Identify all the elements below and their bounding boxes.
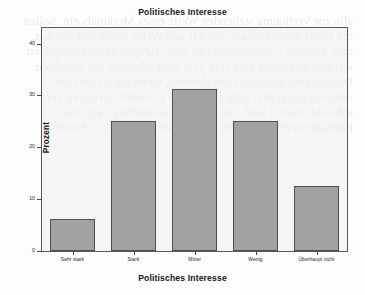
y-axis-tick: 20	[37, 147, 42, 148]
y-axis-title: Prozent	[42, 98, 51, 178]
x-axis-title: Politisches Interesse	[0, 273, 365, 283]
y-axis-tick: 10	[37, 199, 42, 200]
x-axis-tick-label: Stark	[128, 257, 140, 262]
bar	[111, 121, 156, 251]
x-axis-tick	[256, 251, 257, 255]
y-axis-tick-label: 0	[32, 247, 35, 253]
x-axis-tick	[134, 251, 135, 255]
x-axis-tick-label: Wenig	[248, 257, 262, 262]
x-axis-tick-label: Überhaupt nicht	[298, 257, 334, 262]
y-axis-tick: 0	[37, 251, 42, 252]
bar	[172, 89, 217, 251]
chart-title: Politisches Interesse	[0, 7, 365, 17]
chart-page: alle zur Verfügung stehenden Werte eines…	[0, 0, 365, 295]
y-axis-tick-label: 40	[29, 40, 35, 46]
x-axis-tick-label: Sehr stark	[61, 257, 84, 262]
y-axis-tick-label: 20	[29, 143, 35, 149]
bar	[50, 219, 95, 251]
x-axis-tick	[73, 251, 74, 255]
y-axis-tick-label: 30	[29, 91, 35, 97]
y-axis-tick: 40	[37, 44, 42, 45]
bar	[233, 121, 278, 251]
plot-inner: Prozent 010203040 Sehr starkStarkMittelW…	[42, 28, 347, 251]
bar	[294, 186, 339, 251]
y-axis-tick: 30	[37, 95, 42, 96]
x-axis-tick-label: Mittel	[188, 257, 200, 262]
x-axis-tick	[317, 251, 318, 255]
plot-area: Prozent 010203040 Sehr starkStarkMittelW…	[41, 27, 348, 252]
y-axis-tick-label: 10	[29, 195, 35, 201]
x-axis-tick	[195, 251, 196, 255]
